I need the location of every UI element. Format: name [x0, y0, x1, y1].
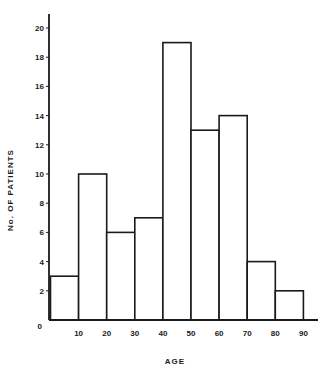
y-tick-label: 8 [40, 199, 45, 208]
histogram-bar [79, 174, 107, 320]
y-tick-label: 10 [35, 170, 44, 179]
plot-area: 02468101214161820102030405060708090 [0, 0, 336, 378]
histogram-chart: 02468101214161820102030405060708090 No. … [0, 0, 336, 378]
y-tick-label: 0 [38, 322, 43, 331]
histogram-bar [135, 218, 163, 320]
y-axis-label-text: No. OF PATIENTS [6, 149, 15, 231]
histogram-bar [247, 262, 275, 320]
y-tick-label: 2 [40, 287, 45, 296]
histogram-bar [163, 43, 191, 320]
y-tick-label: 20 [35, 24, 44, 33]
x-tick-label: 20 [102, 329, 111, 338]
x-tick-label: 50 [187, 329, 196, 338]
x-tick-label: 90 [299, 329, 308, 338]
x-tick-label: 40 [158, 329, 167, 338]
y-tick-label: 4 [40, 258, 45, 267]
y-tick-label: 6 [40, 228, 45, 237]
y-axis-label: No. OF PATIENTS [4, 100, 16, 280]
y-tick-label: 16 [35, 82, 44, 91]
x-tick-label: 60 [215, 329, 224, 338]
y-tick-label: 12 [35, 141, 44, 150]
y-tick-label: 18 [35, 53, 44, 62]
x-tick-label: 80 [271, 329, 280, 338]
histogram-bar [275, 291, 303, 320]
histogram-bar [51, 276, 79, 320]
x-axis-label: AGE [0, 357, 336, 366]
histogram-bar [191, 130, 219, 320]
x-tick-label: 70 [243, 329, 252, 338]
y-tick-label: 14 [35, 112, 44, 121]
histogram-bar [219, 116, 247, 320]
x-tick-label: 30 [130, 329, 139, 338]
histogram-bar [107, 232, 135, 320]
x-tick-label: 10 [74, 329, 83, 338]
